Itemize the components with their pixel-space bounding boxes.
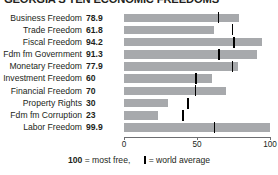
x-axis-label-0: 0 [122,140,127,150]
row-value: 94.2 [86,37,116,48]
chart-legend: 100 = most free,= world average [0,155,278,166]
bar-track [124,122,270,134]
row-label: Financial Freedom [11,86,82,97]
row-value: 70 [86,86,116,97]
score-bar [124,62,238,71]
row-label: Fdm fm Government [3,49,82,60]
bar-track [124,12,270,24]
bar-track [124,97,270,109]
row-label: Fiscal Freedom [23,37,82,48]
world-average-tick-icon [195,85,197,96]
bar-track [124,49,270,61]
score-bar [124,99,168,108]
score-bar [124,123,270,132]
legend-most-free-number: 100 [68,155,82,165]
world-average-tick-icon [182,110,184,121]
table-row: Trade Freedom 61.8 [0,24,278,36]
row-value: 99.9 [86,122,116,133]
bar-track [124,110,270,122]
legend-world-average-text: = world average [149,155,210,165]
score-bar [124,14,239,23]
row-value: 78.9 [86,13,116,24]
world-average-tick-icon [214,122,216,133]
score-bar [124,74,212,83]
row-label: Business Freedom [10,13,82,24]
table-row: Financial Freedom 70 [0,85,278,97]
table-row: Labor Freedom 99.9 [0,122,278,134]
world-average-tick-icon [232,24,234,35]
row-value: 61.8 [86,25,116,36]
table-row: Fiscal Freedom 94.2 [0,36,278,48]
table-row: Fdm fm Corruption 23 [0,110,278,122]
row-label: Trade Freedom [23,25,82,36]
row-value: 91.3 [86,49,116,60]
bar-track [124,73,270,85]
row-label: Monetary Freedom [9,61,82,72]
world-average-tick-icon [144,156,146,165]
score-bar [124,87,226,96]
bar-rows: Business Freedom 78.9 Trade Freedom 61.8… [0,12,278,134]
score-bar [124,26,214,35]
score-bar [124,111,158,120]
bar-track [124,85,270,97]
row-label: Property Rights [23,98,82,109]
table-row: Investment Freedom 60 [0,73,278,85]
table-row: Monetary Freedom 77.9 [0,61,278,73]
bar-track [124,24,270,36]
table-row: Business Freedom 78.9 [0,12,278,24]
row-value: 60 [86,73,116,84]
x-axis-label-50: 50 [192,140,201,150]
bar-track [124,61,270,73]
world-average-tick-icon [187,98,189,109]
score-bar [124,50,257,59]
world-average-tick-icon [232,61,234,72]
row-value: 77.9 [86,61,116,72]
x-axis-label-100: 100 [263,140,277,150]
row-label: Fdm fm Corruption [10,110,82,121]
row-label: Labor Freedom [23,122,82,133]
row-value: 23 [86,110,116,121]
table-row: Fdm fm Government 91.3 [0,49,278,61]
row-value: 30 [86,98,116,109]
world-average-tick-icon [233,37,235,48]
bar-track [124,36,270,48]
row-label: Investment Freedom [3,73,82,84]
world-average-tick-icon [218,49,220,60]
world-average-tick-icon [195,73,197,84]
score-bar [124,38,262,47]
table-row: Property Rights 30 [0,97,278,109]
economic-freedoms-bar-chart: Business Freedom 78.9 Trade Freedom 61.8… [0,0,278,175]
legend-most-free-text: = most free, [85,155,131,165]
world-average-tick-icon [218,12,220,23]
